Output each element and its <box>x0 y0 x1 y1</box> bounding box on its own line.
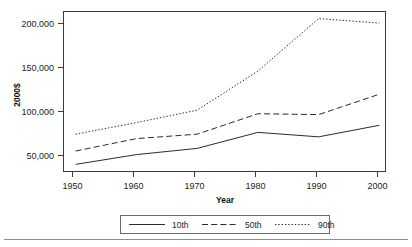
legend-label-50th[interactable]: 50th <box>245 220 262 230</box>
y-axis-tick-labels: 200,000 150,000 100,000 50,000 <box>21 19 54 161</box>
x-tick-label-1950: 1950 <box>62 181 82 191</box>
x-axis-ticks <box>73 172 378 178</box>
series-line-50th <box>76 94 380 151</box>
legend-label-10th[interactable]: 10th <box>172 220 189 230</box>
x-tick-label-1960: 1960 <box>123 181 143 191</box>
x-tick-label-2000: 2000 <box>367 181 387 191</box>
series-line-90th <box>76 19 380 135</box>
y-axis-title: 2000$ <box>12 83 22 107</box>
plot-frame <box>64 12 386 172</box>
legend: 10th 50th 90th <box>121 216 335 234</box>
y-tick-label-200000: 200,000 <box>21 19 54 29</box>
y-tick-label-150000: 150,000 <box>21 63 54 73</box>
line-chart: 200,000 150,000 100,000 50,000 2000$ 195… <box>0 0 412 247</box>
x-tick-label-1970: 1970 <box>184 181 204 191</box>
series-line-10th <box>76 125 380 164</box>
y-tick-label-100000: 100,000 <box>21 107 54 117</box>
y-tick-label-50000: 50,000 <box>26 151 54 161</box>
legend-label-90th[interactable]: 90th <box>318 220 335 230</box>
x-axis-tick-labels: 1950 1960 1970 1980 1990 2000 <box>62 181 387 191</box>
x-tick-label-1980: 1980 <box>245 181 265 191</box>
y-axis-ticks <box>58 24 64 156</box>
data-series-group <box>76 19 380 165</box>
x-tick-label-1990: 1990 <box>306 181 326 191</box>
figure-container: 200,000 150,000 100,000 50,000 2000$ 195… <box>0 0 412 247</box>
x-axis-title: Year <box>216 195 235 205</box>
